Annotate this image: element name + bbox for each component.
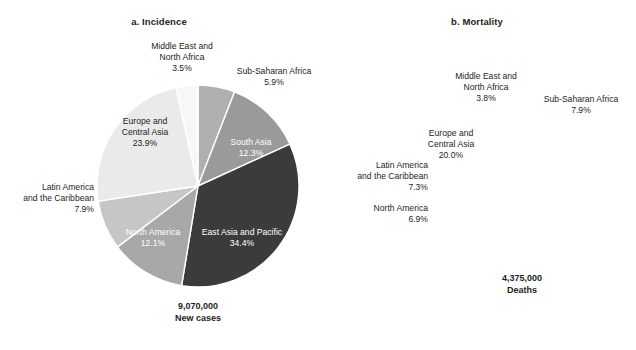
slice-label-europe-central-asia: Europe and Central Asia 20.0% [415, 128, 487, 161]
panel-title-incidence: a. Incidence [0, 16, 318, 27]
chart-panel-incidence: a. Incidence Middle East and North Afric… [0, 0, 318, 350]
total-annotation-mortality: 4,375,000 Deaths [462, 272, 582, 296]
slice-label-south-asia: South Asia 12.3% [218, 137, 284, 159]
pie-chart-incidence [96, 84, 300, 288]
pie-svg-incidence [96, 84, 300, 288]
slice-label-south-asia: South Asia 16.1% [522, 158, 584, 180]
slice-label-latin-america-caribbean: Latin America and the Caribbean 7.9% [6, 182, 94, 215]
slice-label-sub-saharan-africa: Sub-Saharan Africa 7.9% [535, 94, 627, 116]
slice-label-north-america: North America 12.1% [116, 227, 190, 249]
slice-label-sub-saharan-africa: Sub-Saharan Africa 5.9% [232, 66, 316, 88]
slice-label-latin-america-caribbean: Latin America and the Caribbean 7.3% [332, 160, 428, 193]
slice-label-europe-central-asia: Europe and Central Asia 23.9% [105, 116, 185, 149]
total-annotation-incidence: 9,070,000 New cases [138, 300, 258, 324]
slice-label-middle-east-north-africa: Middle East and North Africa 3.8% [426, 71, 546, 104]
slice-label-east-asia-pacific: East Asia and Pacific 34.4% [187, 227, 297, 249]
chart-panel-mortality: b. Mortality Middle East and North Afric… [318, 0, 636, 350]
slice-label-middle-east-north-africa: Middle East and North Africa 3.5% [122, 41, 242, 74]
slice-label-east-asia-pacific: East Asia and Pacific 38.1% [464, 215, 576, 237]
slice-label-north-america: North America 6.9% [342, 203, 428, 225]
panel-title-mortality: b. Mortality [318, 16, 636, 27]
